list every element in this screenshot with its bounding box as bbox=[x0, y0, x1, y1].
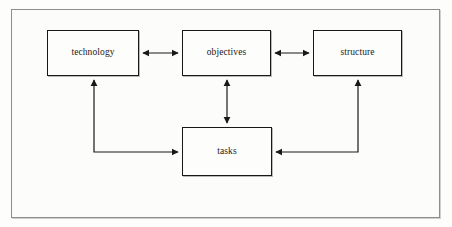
node-technology-label: technology bbox=[71, 48, 114, 58]
node-objectives-label: objectives bbox=[207, 48, 247, 58]
diagram-canvas: technology objectives structure tasks bbox=[0, 0, 452, 227]
node-technology[interactable]: technology bbox=[47, 30, 139, 76]
node-tasks[interactable]: tasks bbox=[182, 127, 272, 176]
node-tasks-label: tasks bbox=[217, 147, 237, 157]
node-structure[interactable]: structure bbox=[313, 30, 402, 76]
node-structure-label: structure bbox=[340, 48, 374, 58]
node-objectives[interactable]: objectives bbox=[182, 30, 271, 76]
